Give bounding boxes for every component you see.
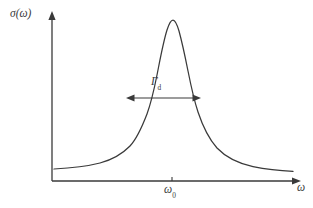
y-axis-label: σ(ω) [10, 8, 31, 20]
linewidth-arrow [126, 95, 201, 102]
peak-center-subscript: 0 [172, 191, 176, 200]
y-axis-arrowhead-icon [48, 11, 55, 20]
x-axis [52, 177, 301, 184]
x-axis-label: ω [297, 182, 305, 194]
resonance-lineshape-figure: σ(ω) ω ω0 Γd [0, 0, 313, 208]
plot-canvas [0, 0, 313, 208]
resonance-curve [54, 20, 293, 171]
peak-center-symbol: ω [164, 183, 172, 195]
linewidth-symbol: Γ [151, 75, 158, 87]
linewidth-arrow-left-head-icon [126, 95, 135, 102]
peak-center-label: ω0 [164, 184, 176, 196]
linewidth-arrow-right-head-icon [193, 95, 202, 102]
linewidth-subscript: d [158, 83, 162, 92]
y-axis [48, 11, 55, 181]
linewidth-label: Γd [151, 76, 161, 88]
